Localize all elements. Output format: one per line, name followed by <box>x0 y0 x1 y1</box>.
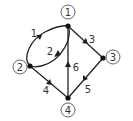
node-2-label: 2 <box>17 62 23 73</box>
node-4: 4 <box>61 103 75 117</box>
directed-graph: 1 2 3 4 1 2 3 4 5 6 <box>0 0 133 121</box>
edge-1-label: 1 <box>31 28 37 39</box>
node-2: 2 <box>13 60 27 74</box>
edge-2-label: 2 <box>47 46 53 57</box>
edge-5-label: 5 <box>85 84 91 95</box>
node-1-dot <box>65 23 70 28</box>
edge-3-label: 3 <box>89 34 95 45</box>
node-4-label: 4 <box>65 105 71 116</box>
node-4-dot <box>65 95 70 100</box>
node-3: 3 <box>106 50 120 64</box>
edge-6-label: 6 <box>73 62 79 73</box>
edge-4-label: 4 <box>43 85 49 96</box>
node-2-dot <box>27 63 32 68</box>
node-1-label: 1 <box>65 7 71 18</box>
node-3-dot <box>100 55 105 60</box>
edge-6-arrow-icon <box>65 61 71 67</box>
edge-2-arrow-icon <box>54 50 61 57</box>
node-3-label: 3 <box>110 52 116 63</box>
node-1: 1 <box>61 5 75 19</box>
